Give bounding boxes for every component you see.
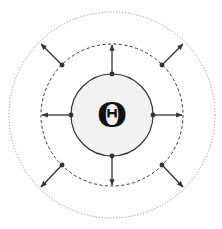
arrow-up-left xyxy=(41,44,62,65)
arrow-up-right xyxy=(162,44,183,65)
theta-expansion-diagram: Θ xyxy=(0,0,222,229)
arrow-down-right xyxy=(162,165,183,187)
arrow-down-left xyxy=(41,165,62,187)
theta-symbol: Θ xyxy=(97,95,127,135)
